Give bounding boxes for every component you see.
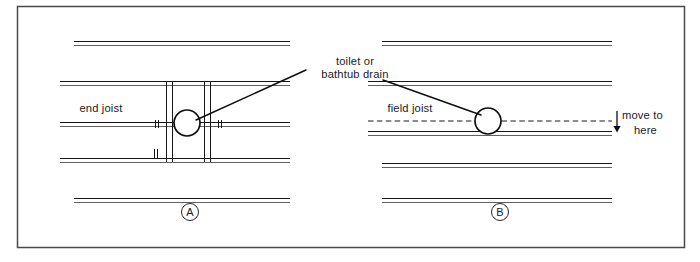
figure-frame-border [18,7,685,248]
panel-b-letter: B [496,206,504,218]
tick-mark-left [156,120,159,128]
callout-drain-line1: toilet or [336,55,374,67]
drain-opening-circle-b [475,108,501,134]
move-to-here-arrow-icon [613,111,620,133]
joist-a-1 [74,42,290,46]
panel-a-letter: A [186,206,194,218]
panel-b: field joist move to here B [368,42,663,221]
tick-mark-right [219,120,222,128]
panel-a: end joist A [60,42,290,221]
label-move-to-line2: here [634,124,657,136]
joist-a-5 [74,199,290,203]
joist-b-1 [382,42,612,46]
label-end-joist: end joist [79,102,123,114]
drain-opening-circle-a [174,110,200,136]
joist-b-4 [382,164,612,168]
panel-a-letter-badge: A [182,204,199,221]
callout-drain-line2: bathtub drain [321,68,388,80]
leader-line-to-drain-a [196,70,306,120]
panel-b-letter-badge: B [492,204,509,221]
tick-mark-lower [155,149,158,158]
diagram-canvas: end joist A [0,0,700,262]
joist-b-5 [382,199,612,203]
label-move-to-line1: move to [622,109,663,121]
joist-a-4 [60,159,290,163]
label-field-joist: field joist [387,102,433,114]
drain-callout: toilet or bathtub drain [196,55,481,120]
joist-a-2 [60,82,290,86]
joist-b-2 [368,82,612,86]
construction-detail-figure: end joist A [0,0,700,262]
